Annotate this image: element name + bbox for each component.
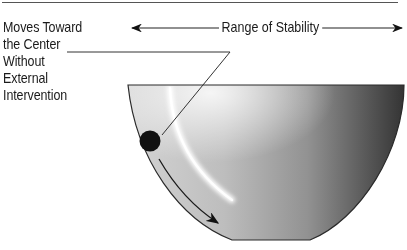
half-bowl-icon (128, 85, 404, 240)
ball-icon (140, 131, 161, 152)
annotation-line-3: Without (3, 53, 82, 70)
annotation-label: Moves Toward the Center Without External… (3, 19, 82, 104)
annotation-line-5: Intervention (3, 87, 82, 104)
annotation-line-4: External (3, 70, 82, 87)
stability-diagram: Moves Toward the Center Without External… (0, 0, 407, 250)
range-of-stability-label: Range of Stability (219, 19, 322, 36)
annotation-line-1: Moves Toward (3, 19, 82, 36)
annotation-line-2: the Center (3, 36, 82, 53)
